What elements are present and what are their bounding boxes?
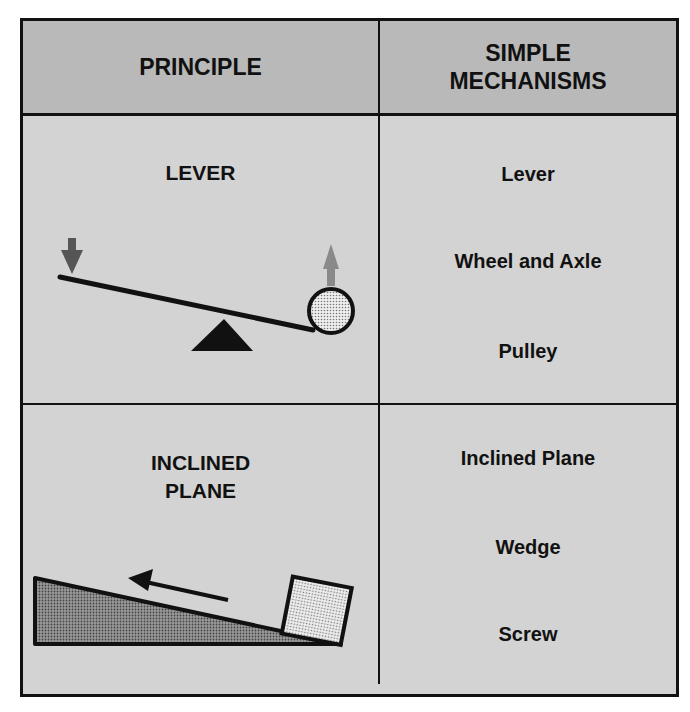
principles-table: PRINCIPLE SIMPLE MECHANISMS LEVER	[20, 18, 679, 697]
mechanism-screw: Screw	[380, 623, 676, 646]
fulcrum-icon	[191, 319, 253, 351]
header-mechanisms-line2: MECHANISMS	[449, 67, 606, 95]
inclined-plane-diagram	[23, 551, 378, 651]
table-header: PRINCIPLE SIMPLE MECHANISMS	[23, 21, 676, 116]
lever-beam	[60, 277, 313, 330]
principle-lever: LEVER	[23, 159, 378, 187]
row-divider	[23, 403, 676, 405]
header-mechanisms-line1: SIMPLE	[449, 39, 606, 67]
block-icon	[282, 577, 352, 645]
load-wheel-icon	[309, 289, 353, 333]
principle-inclined-line1: INCLINED	[23, 449, 378, 477]
mechanism-pulley: Pulley	[380, 340, 676, 363]
down-force-arrow-icon	[61, 238, 83, 274]
direction-arrow-icon	[128, 569, 228, 600]
principle-inclined-line2: PLANE	[23, 477, 378, 505]
principle-inclined-plane: INCLINED PLANE	[23, 449, 378, 505]
mechanism-inclined-plane: Inclined Plane	[380, 447, 676, 470]
lever-diagram	[23, 216, 378, 366]
header-simple-mechanisms: SIMPLE MECHANISMS	[380, 21, 676, 113]
header-principle: PRINCIPLE	[23, 21, 378, 113]
header-principle-label: PRINCIPLE	[139, 53, 262, 81]
up-force-arrow-icon	[323, 244, 339, 286]
mechanism-wedge: Wedge	[380, 536, 676, 559]
mechanism-wheel-and-axle: Wheel and Axle	[380, 250, 676, 273]
mechanism-lever: Lever	[380, 163, 676, 186]
